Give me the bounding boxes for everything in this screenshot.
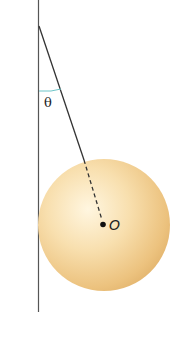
diagram-canvas: θ O xyxy=(0,0,195,339)
center-label: O xyxy=(109,217,120,233)
string xyxy=(39,26,84,160)
center-dot xyxy=(100,222,106,228)
angle-label: θ xyxy=(44,95,52,110)
angle-arc xyxy=(39,89,61,91)
